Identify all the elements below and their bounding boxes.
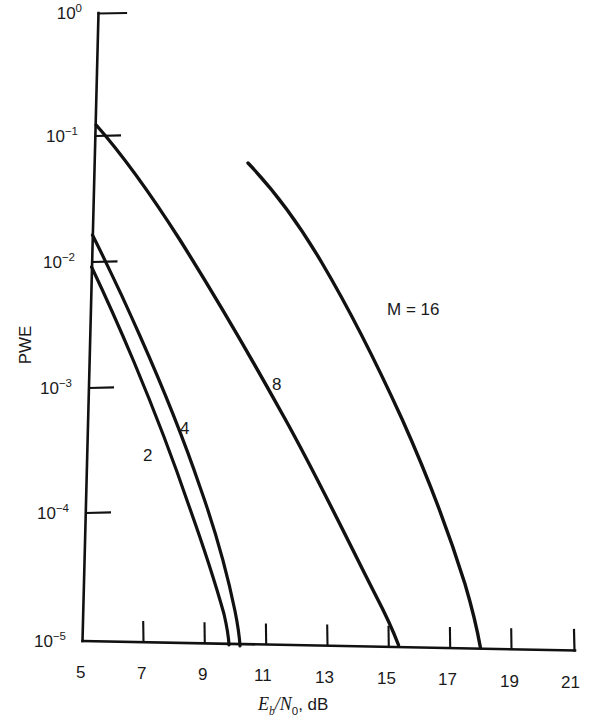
curve-label-m16: M = 16 [387,300,439,319]
y-tick-label-1e-1: 10−1 [46,125,78,146]
x-tick-label-19: 19 [500,672,519,691]
x-tick-labels: 5 7 9 11 13 15 17 19 21 [76,663,580,692]
curve-label-m2: 2 [143,446,152,465]
x-tick-label-11: 11 [254,666,272,685]
y-axis-title: PWE [16,326,35,365]
x-axis-right-stub [574,630,575,651]
y-tick-label-1e-3: 10−3 [40,377,72,398]
x-axis-title: Eb/N0, dB [257,694,328,717]
curve-label-m4: 4 [180,419,189,438]
curve-m8 [96,125,398,645]
x-tick-label-9: 9 [198,665,207,684]
chart-axes [83,13,576,651]
curve-m2 [92,267,229,645]
y-tick-1e-1 [95,135,121,136]
y-tick-label-1e-5: 10−5 [34,630,66,651]
y-tick-label-1e-2: 10−2 [43,251,75,272]
x-tick-label-17: 17 [438,670,457,689]
y-tick-1e-4 [86,512,111,513]
x-tick-label-13: 13 [315,668,334,687]
curve-label-m8: 8 [272,375,281,394]
curve-labels: 2 4 8 M = 16 [143,300,439,465]
x-axis-line [83,641,576,651]
chart-curves [92,125,481,648]
y-tick-labels: 100 10−1 10−2 10−3 10−4 10−5 [34,2,82,651]
x-tick-label-7: 7 [137,664,146,683]
y-axis-line [83,13,99,641]
y-axis-top-stub [99,13,127,14]
figure-container: 100 10−1 10−2 10−3 10−4 10−5 5 7 9 11 [0,0,598,720]
y-tick-label-1e-4: 10−4 [37,502,70,523]
x-tick-label-21: 21 [561,673,580,692]
y-tick-1e-3 [89,387,114,388]
y-tick-label-1e0: 100 [57,2,82,23]
x-tick-label-5: 5 [76,663,85,682]
x-tick-label-15: 15 [377,669,396,688]
pwe-vs-ebno-chart: 100 10−1 10−2 10−3 10−4 10−5 5 7 9 11 [0,0,598,720]
x-axis-ticks [143,621,511,649]
